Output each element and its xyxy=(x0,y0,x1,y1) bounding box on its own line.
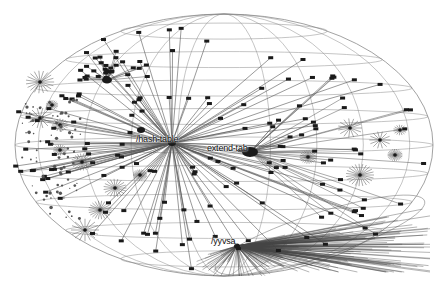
node-label-extend-tab[interactable]: extend-tab xyxy=(207,143,248,153)
node-label-yyvsa[interactable]: /yyvsa xyxy=(211,236,235,246)
node-label-hash-table[interactable]: /hash-table xyxy=(136,134,178,144)
graph-visualization[interactable]: /hash-table extend-tab /yyvsa xyxy=(0,0,446,289)
